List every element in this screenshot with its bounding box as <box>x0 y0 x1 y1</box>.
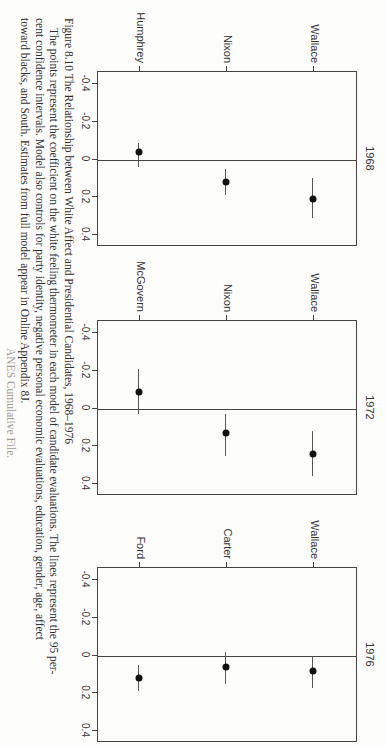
point-estimate-marker <box>310 196 317 203</box>
x-axis-tick-label: 0.4 <box>80 715 91 745</box>
x-axis-tick <box>92 159 97 160</box>
x-axis-tick-label: -0.4 <box>80 317 91 347</box>
zero-reference-line <box>98 656 356 657</box>
x-axis-tick <box>92 408 97 409</box>
panel-1972: 1972-0.4-0.200.20.4WallaceNixonMcGovern <box>86 320 386 495</box>
x-axis-tick-label: 0.2 <box>80 181 91 211</box>
x-axis-tick-label: -0.2 <box>80 602 91 632</box>
panel-1976: 1976-0.4-0.200.20.4WallaceCarterFord <box>86 567 386 742</box>
x-axis-tick <box>92 83 97 84</box>
point-estimate-marker <box>136 675 143 682</box>
x-axis-tick <box>92 196 97 197</box>
plot-area <box>97 567 357 742</box>
y-axis-tick <box>313 562 314 567</box>
x-axis-tick-label: -0.4 <box>80 68 91 98</box>
candidate-label-carter: Carter <box>222 528 234 559</box>
candidate-label-nixon: Nixon <box>222 284 234 312</box>
candidate-label-wallace: Wallace <box>309 520 321 559</box>
figure-label: Figure 8.10 <box>63 18 75 71</box>
caption-line-3: toward blacks, and South. Estimates from… <box>18 18 33 728</box>
rotated-figure-page: 1968-0.4-0.200.20.4WallaceNixonHumphrey1… <box>0 0 386 748</box>
caption-line-2: cent confidence intervals. Model also co… <box>33 18 48 728</box>
panel-year-label: 1976 <box>364 567 376 742</box>
y-axis-tick <box>139 562 140 567</box>
y-axis-tick <box>139 315 140 320</box>
panel-year-label: 1972 <box>364 320 376 495</box>
x-axis-tick-label: 0.2 <box>80 430 91 460</box>
point-estimate-marker <box>136 388 143 395</box>
y-axis-tick <box>226 562 227 567</box>
candidate-label-ford: Ford <box>135 536 147 559</box>
panel-year-label: 1968 <box>364 71 376 246</box>
point-estimate-marker <box>223 430 230 437</box>
y-axis-tick <box>313 315 314 320</box>
point-estimate-marker <box>223 663 230 670</box>
caption-line-1: The points represent the coefficient on … <box>47 18 62 728</box>
figure-title: The Relationship between White Affect an… <box>63 74 75 444</box>
x-axis-tick-label: 0.2 <box>80 677 91 707</box>
x-axis-tick-label: 0 <box>80 640 91 670</box>
point-estimate-marker <box>310 450 317 457</box>
x-axis-tick-label: 0.4 <box>80 468 91 498</box>
x-axis-tick <box>92 617 97 618</box>
x-axis-tick <box>92 332 97 333</box>
x-axis-tick <box>92 730 97 731</box>
x-axis-tick <box>92 579 97 580</box>
x-axis-tick <box>92 234 97 235</box>
x-axis-tick <box>92 445 97 446</box>
y-axis-tick <box>313 66 314 71</box>
x-axis-tick <box>92 692 97 693</box>
point-estimate-marker <box>223 179 230 186</box>
x-axis-tick-label: 0 <box>80 144 91 174</box>
x-axis-tick <box>92 483 97 484</box>
x-axis-tick-label: 0.4 <box>80 219 91 249</box>
point-estimate-marker <box>310 667 317 674</box>
candidate-label-wallace: Wallace <box>309 24 321 63</box>
x-axis-tick <box>92 655 97 656</box>
zero-reference-line <box>98 409 356 410</box>
plot-area <box>97 320 357 495</box>
figure-caption: Figure 8.10 The Relationship between Whi… <box>4 18 77 728</box>
panel-1968: 1968-0.4-0.200.20.4WallaceNixonHumphrey <box>86 71 386 246</box>
candidate-label-humphrey: Humphrey <box>135 12 147 63</box>
x-axis-tick-label: 0 <box>80 393 91 423</box>
point-estimate-marker <box>136 148 143 155</box>
x-axis-tick-label: -0.4 <box>80 564 91 594</box>
candidate-label-wallace: Wallace <box>309 273 321 312</box>
x-axis-tick-label: -0.2 <box>80 106 91 136</box>
caption-line-4-partial: ANES Cumulative File. <box>4 18 19 728</box>
y-axis-tick <box>226 66 227 71</box>
y-axis-tick <box>226 315 227 320</box>
x-axis-tick-label: -0.2 <box>80 355 91 385</box>
candidate-label-mcgovern: McGovern <box>135 261 147 312</box>
zero-reference-line <box>98 160 356 161</box>
y-axis-tick <box>139 66 140 71</box>
x-axis-tick <box>92 121 97 122</box>
x-axis-tick <box>92 370 97 371</box>
candidate-label-nixon: Nixon <box>222 35 234 63</box>
plot-area <box>97 71 357 246</box>
